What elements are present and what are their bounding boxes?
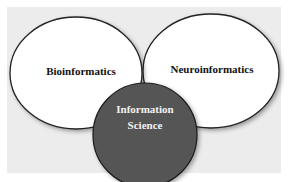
venn-diagram: Bioinformatics Neuroinformatics Informat… bbox=[0, 0, 288, 182]
bioinformatics-label: Bioinformatics bbox=[46, 65, 116, 77]
information-science-label-line2: Science bbox=[128, 119, 163, 131]
set-information-science bbox=[93, 83, 197, 182]
neuroinformatics-label: Neuroinformatics bbox=[171, 63, 255, 75]
information-science-label-line1: Information bbox=[116, 103, 173, 115]
venn-svg: Bioinformatics Neuroinformatics Informat… bbox=[0, 0, 288, 182]
information-science-circle bbox=[93, 83, 197, 182]
